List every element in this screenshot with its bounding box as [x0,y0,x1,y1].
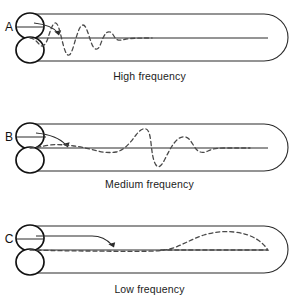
traveling-wave-figure: A High frequency B Medium frequency [0,0,299,307]
diagram-low-frequency: C [0,207,299,281]
caption-medium-frequency: Medium frequency [0,178,299,190]
panel-label-C: C [5,232,14,246]
panel-medium-frequency: B Medium frequency [0,103,299,203]
panel-low-frequency: C Low frequency [0,207,299,307]
round-window-ellipse-high [16,37,44,63]
oval-window-ellipse-medium [16,123,44,149]
caption-low-frequency: Low frequency [0,283,299,295]
round-window-ellipse-low [16,249,44,275]
round-window-ellipse-medium [16,147,44,173]
panel-label-B: B [5,130,13,144]
diagram-high-frequency: A [0,0,299,70]
traveling-wave-low [30,232,268,252]
panel-high-frequency: A High frequency [0,0,299,100]
oval-window-ellipse-high [16,13,44,39]
traveling-wave-high [30,23,152,55]
panel-label-A: A [5,20,13,34]
caption-high-frequency: High frequency [0,70,299,82]
oval-window-ellipse-low [16,225,44,251]
diagram-medium-frequency: B [0,103,299,175]
input-arrow-low [36,236,112,245]
